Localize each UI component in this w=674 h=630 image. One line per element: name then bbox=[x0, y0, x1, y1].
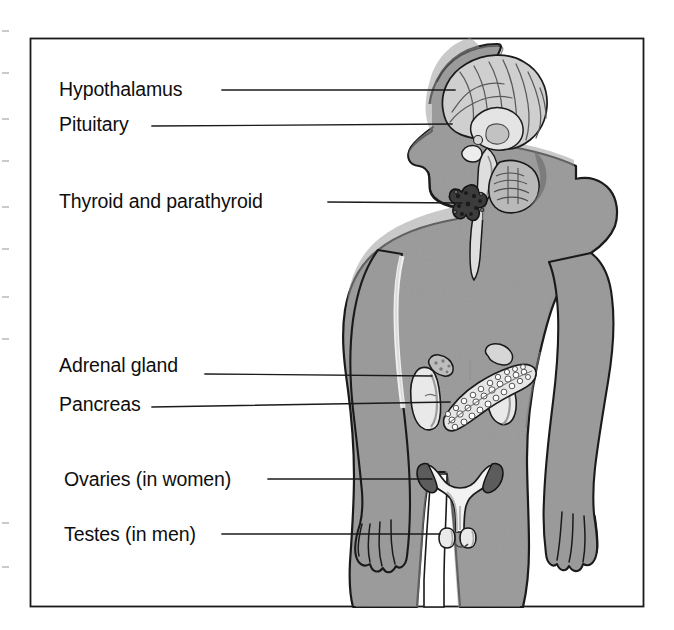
label-pancreas: Pancreas bbox=[59, 393, 141, 415]
label-adrenal-gland: Adrenal gland bbox=[59, 354, 178, 376]
label-ovaries: Ovaries (in women) bbox=[64, 468, 231, 490]
label-pituitary: Pituitary bbox=[59, 113, 129, 135]
label-testes: Testes (in men) bbox=[64, 523, 196, 545]
thalamus bbox=[486, 124, 509, 144]
diagram-canvas: Hypothalamus Pituitary Thyroid and parat… bbox=[0, 0, 674, 630]
endocrine-system-figure: Hypothalamus Pituitary Thyroid and parat… bbox=[0, 0, 674, 630]
label-hypothalamus: Hypothalamus bbox=[59, 78, 183, 100]
pituitary-gland bbox=[462, 146, 482, 162]
label-thyroid-and-parathyroid: Thyroid and parathyroid bbox=[59, 190, 263, 212]
hypothalamus-site bbox=[474, 136, 483, 145]
